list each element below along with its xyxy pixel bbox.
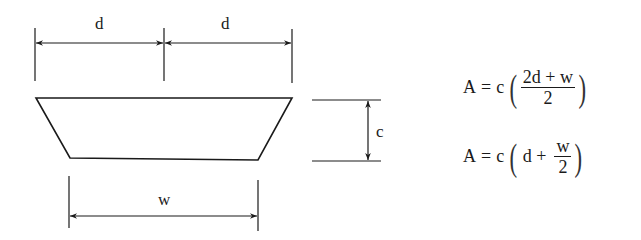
label-d-left: d [95,14,104,33]
formula-2-eq: = [481,146,491,167]
formula-1-right-paren: ) [579,69,587,107]
formula-1-denominator: 2 [521,87,575,108]
top-dimension [35,28,292,83]
formula-2-coef: c [496,146,504,167]
formula-area-2: A = c ( d + w 2 ) [463,137,583,177]
trapezoid-diagram: d d c w [0,0,641,240]
formula-1-numerator: 2d + w [521,68,575,87]
formula-2-term: d + [523,146,547,167]
formula-2-lhs: A [463,146,476,167]
formula-2-denominator: 2 [554,156,571,177]
formula-1-coef: c [496,77,504,98]
label-c: c [376,122,384,141]
formula-area-1: A = c ( 2d + w 2 ) [463,68,587,108]
formula-2-right-paren: ) [575,138,583,176]
formula-2-numerator: w [554,137,571,156]
label-w: w [158,190,171,209]
formula-1-left-paren: ( [510,69,518,107]
trapezoid-shape [36,98,292,160]
formula-2-left-paren: ( [510,138,518,176]
formula-1-lhs: A [463,77,476,98]
height-dimension [312,100,381,161]
formula-1-fraction: 2d + w 2 [521,68,575,108]
formula-1-eq: = [481,77,491,98]
formula-2-fraction: w 2 [554,137,571,177]
label-d-right: d [221,14,230,33]
